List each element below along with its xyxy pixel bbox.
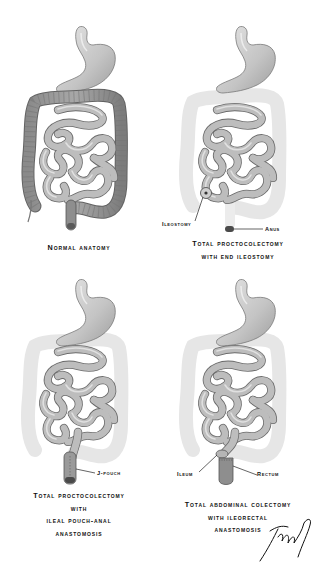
label-anus: Anus: [265, 226, 280, 232]
j-pouch-leader-line: [76, 469, 95, 473]
rectum-leader-line: [233, 466, 257, 475]
caption-ipaa: Total proctocolectomy with ileal pouch-a…: [0, 490, 158, 540]
rectum: [66, 200, 76, 230]
artist-signature: [258, 515, 317, 565]
j-pouch: [64, 452, 76, 484]
caption-end-ileostomy: Total proctocolectomy with end ileostomy: [159, 238, 317, 263]
caption-normal-anatomy: Normal anatomy: [0, 242, 158, 255]
panel-ileal-pouch-anal-anastomosis: J-pouch Total proctocolectomy with ileal…: [0, 282, 158, 565]
label-rectum: Rectum: [257, 471, 279, 477]
label-j-pouch: J-pouch: [97, 470, 121, 476]
ileum-leader-line: [199, 455, 217, 472]
anus-marker: [225, 226, 234, 232]
ileostomy-stoma: [201, 188, 212, 199]
rectum-stump: [219, 458, 233, 485]
label-ileostomy: Ileostomy: [162, 221, 191, 227]
panel-end-ileostomy: Ileostomy Anus Total proctocolectomy wit…: [159, 0, 317, 282]
normal-anatomy-illustration: [0, 0, 158, 282]
panel-normal-anatomy: Normal anatomy: [0, 0, 158, 282]
label-ileum: Ileum: [177, 471, 193, 477]
